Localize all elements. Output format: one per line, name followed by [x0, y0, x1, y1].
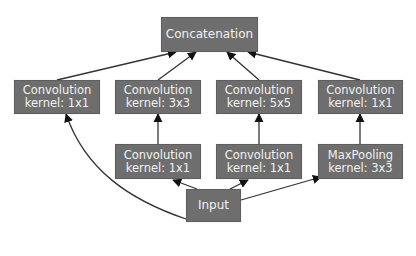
concatenation-label: Concatenation	[166, 28, 253, 41]
node-title: Convolution	[124, 149, 193, 162]
convolution-1x1-branch-node: Convolution kernel: 1x1	[14, 80, 100, 114]
convolution-3x3-node: Convolution kernel: 3x3	[115, 80, 201, 114]
convolution-1x1-pool-proj-node: Convolution kernel: 1x1	[318, 80, 403, 114]
edge-conv-d-to-concat	[248, 52, 360, 80]
inception-module-diagram: Concatenation Convolution kernel: 1x1 Co…	[0, 0, 416, 256]
node-title: MaxPooling	[328, 149, 393, 162]
input-node: Input	[186, 189, 241, 222]
edge-input-to-reduce-c	[230, 180, 248, 189]
edge-input-to-pool	[241, 177, 321, 200]
maxpooling-3x3-node: MaxPooling kernel: 3x3	[318, 144, 403, 179]
edge-input-to-reduce-b	[173, 180, 197, 189]
node-kernel: kernel: 1x1	[25, 97, 89, 110]
concatenation-node: Concatenation	[161, 17, 258, 52]
edge-conv-c-to-concat	[227, 52, 259, 80]
node-kernel: kernel: 3x3	[328, 162, 392, 175]
node-title: Convolution	[225, 149, 294, 162]
node-kernel: kernel: 3x3	[126, 97, 190, 110]
convolution-1x1-reduce-5x5-node: Convolution kernel: 1x1	[216, 144, 302, 179]
convolution-5x5-node: Convolution kernel: 5x5	[216, 80, 302, 114]
edge-conv-a-to-concat	[57, 52, 176, 80]
node-kernel: kernel: 5x5	[227, 97, 291, 110]
node-kernel: kernel: 1x1	[126, 162, 190, 175]
node-kernel: kernel: 1x1	[328, 97, 392, 110]
edge-conv-b-to-concat	[158, 52, 196, 80]
convolution-1x1-reduce-3x3-node: Convolution kernel: 1x1	[115, 144, 201, 179]
node-kernel: kernel: 1x1	[227, 162, 291, 175]
input-label: Input	[198, 199, 229, 212]
